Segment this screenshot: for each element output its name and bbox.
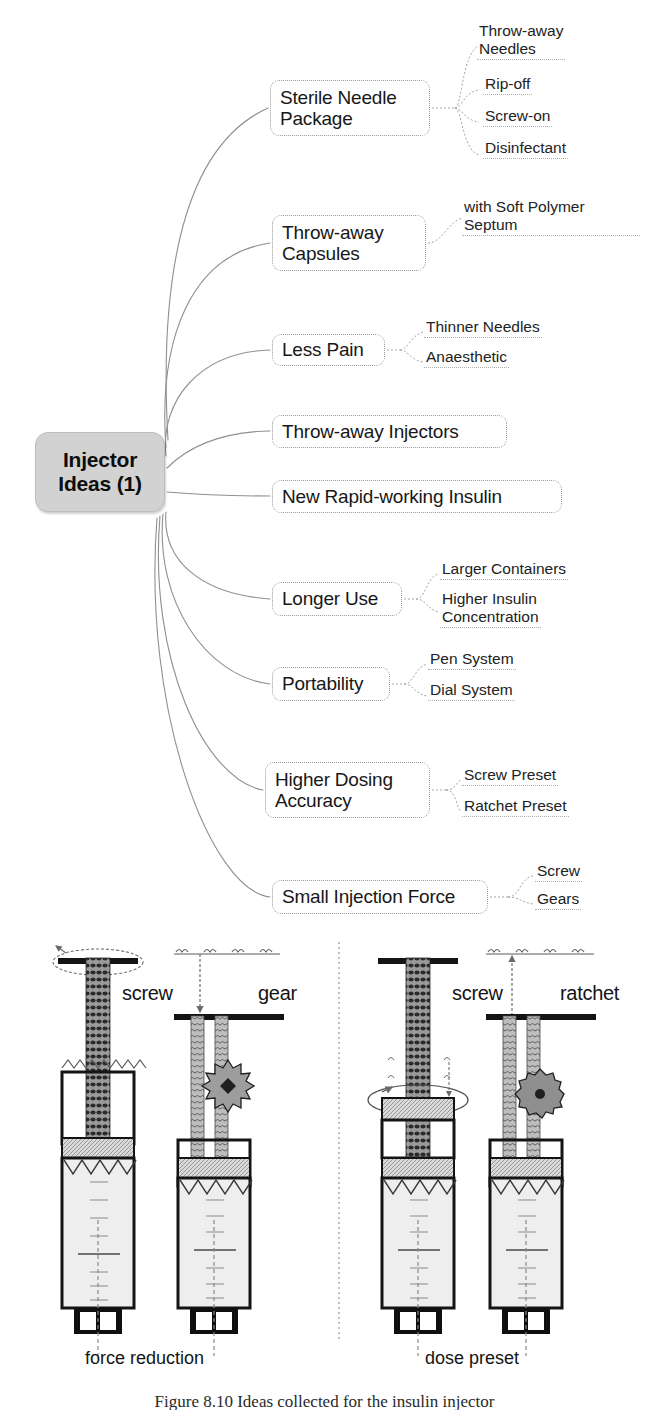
leaf-higher-insulin-concentration[interactable]: Higher Insulin Concentration: [440, 590, 541, 628]
ratchet-wheel: [515, 1069, 564, 1118]
leaf-screw-preset[interactable]: Screw Preset: [462, 766, 558, 786]
leaf-link-6b: [416, 574, 438, 599]
node-small-injection-force[interactable]: Small Injection Force: [272, 880, 488, 914]
label-screw-right: screw: [452, 982, 503, 1005]
node-less-pain[interactable]: Less Pain: [272, 334, 385, 366]
branch-curve-6: [166, 512, 270, 599]
label-screw-left: screw: [122, 982, 173, 1005]
leaf-disinfectant[interactable]: Disinfectant: [483, 139, 568, 159]
caption-dose-preset: dose preset: [425, 1348, 519, 1369]
node-sterile-needle-package[interactable]: Sterile Needle Package: [270, 80, 430, 136]
leaf-link-7c: [404, 684, 427, 696]
node-throw-away-capsules[interactable]: Throw-away Capsules: [272, 215, 426, 271]
leaf-thinner-needles[interactable]: Thinner Needles: [424, 318, 542, 338]
branch-curve-5: [167, 492, 270, 496]
leaf-anaesthetic[interactable]: Anaesthetic: [424, 348, 509, 368]
branch-curve-4: [167, 431, 270, 468]
leaf-link-6c: [416, 599, 438, 612]
gear-wheel: [202, 1060, 254, 1112]
leaf-gears[interactable]: Gears: [535, 890, 581, 910]
figure-page: Injector Ideas (1) Sterile Needle Packag…: [0, 0, 649, 1410]
syringe-screw-right: [368, 958, 468, 1356]
mindmap-diagram: Injector Ideas (1) Sterile Needle Packag…: [0, 0, 649, 925]
branch-curve-7: [162, 514, 270, 684]
branch-curve-9: [155, 518, 270, 897]
leaf-link-3c: [400, 350, 423, 362]
label-gear: gear: [258, 982, 297, 1005]
syringe-illustration: screw gear screw ratchet force reduction…: [0, 920, 649, 1360]
leaf-throw-away-needles[interactable]: Throw-away Needles: [477, 22, 565, 60]
leaf-link-8b: [446, 780, 461, 790]
syringe-ratchet: [486, 950, 596, 1357]
branch-curve-2: [165, 243, 270, 448]
leaf-ratchet-preset[interactable]: Ratchet Preset: [462, 797, 569, 817]
leaf-link-9b: [508, 876, 533, 897]
leaf-larger-containers[interactable]: Larger Containers: [440, 560, 568, 580]
leaf-link-1b: [455, 46, 479, 108]
syringe-svg: [0, 920, 649, 1360]
branch-curve-3: [165, 350, 270, 456]
syringe-screw-left: [53, 946, 146, 1356]
leaf-link-9c: [508, 897, 533, 904]
leaf-link-8c: [446, 790, 461, 812]
branch-curve-1: [166, 108, 268, 440]
leaf-link-1d: [455, 108, 479, 122]
syringe-gear: [174, 950, 284, 1357]
leaf-rip-off[interactable]: Rip-off: [483, 75, 532, 95]
leaf-with-soft-polymer-septum[interactable]: with Soft Polymer Septum: [462, 198, 640, 236]
leaf-link-1e: [455, 108, 479, 155]
node-new-rapid-working-insulin[interactable]: New Rapid-working Insulin: [272, 480, 562, 513]
branch-curve-8: [158, 516, 263, 790]
leaf-dial-system[interactable]: Dial System: [428, 681, 515, 701]
caption-force-reduction: force reduction: [85, 1348, 204, 1369]
leaf-link-3b: [400, 332, 423, 350]
label-ratchet: ratchet: [560, 982, 619, 1005]
node-portability[interactable]: Portability: [272, 667, 390, 701]
center-node-injector-ideas[interactable]: Injector Ideas (1): [35, 432, 165, 512]
node-higher-dosing-accuracy[interactable]: Higher Dosing Accuracy: [265, 762, 430, 818]
node-longer-use[interactable]: Longer Use: [272, 582, 402, 616]
leaf-link-1c: [455, 90, 479, 108]
leaf-screw-on[interactable]: Screw-on: [483, 107, 552, 127]
figure-caption: Figure 8.10 Ideas collected for the insu…: [0, 1392, 649, 1410]
leaf-pen-system[interactable]: Pen System: [428, 650, 516, 670]
leaf-link-2a: [428, 218, 462, 243]
leaf-screw[interactable]: Screw: [535, 862, 582, 882]
node-throw-away-injectors[interactable]: Throw-away Injectors: [272, 415, 507, 448]
leaf-link-7b: [404, 664, 427, 684]
